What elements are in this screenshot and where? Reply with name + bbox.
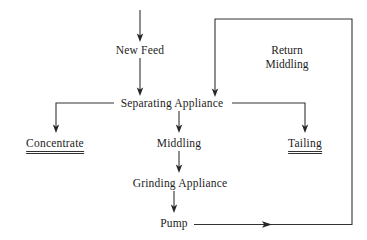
node-separating-appliance: Separating Appliance <box>121 97 224 110</box>
flowchart-connectors <box>0 0 367 240</box>
node-middling-label: Middling <box>157 137 201 149</box>
concentrate-second-underline <box>26 153 84 154</box>
edge-separating-appliance-to-concentrate <box>53 103 114 133</box>
edge-separating-appliance-to-tailing <box>232 103 308 133</box>
node-new-feed-label: New Feed <box>116 44 165 56</box>
node-concentrate: Concentrate <box>26 137 84 155</box>
tailing-second-underline <box>288 153 322 154</box>
annotation-return-middling-line2: Middling <box>266 57 309 71</box>
node-middling: Middling <box>157 137 201 150</box>
node-pump-label: Pump <box>160 217 188 229</box>
annotation-return-middling-line1: Return <box>266 43 309 57</box>
node-concentrate-label: Concentrate <box>26 137 84 152</box>
node-pump: Pump <box>160 217 188 230</box>
edge-separating-appliance-to-middling <box>176 111 182 133</box>
node-separating-appliance-label: Separating Appliance <box>121 97 224 109</box>
node-grinding-appliance: Grinding Appliance <box>133 177 228 190</box>
edge-new-feed-to-separating-appliance <box>137 58 143 96</box>
flowchart-diagram: New Feed Separating Appliance Concentrat… <box>0 0 367 240</box>
edge-grinding-appliance-to-pump <box>171 191 177 213</box>
edge-inlet-to-new-feed <box>137 10 143 42</box>
edge-middling-to-grinding-appliance <box>176 151 182 173</box>
annotation-return-middling: Return Middling <box>266 43 309 71</box>
node-new-feed: New Feed <box>116 44 165 57</box>
node-tailing: Tailing <box>288 137 322 155</box>
node-grinding-appliance-label: Grinding Appliance <box>133 177 228 189</box>
node-tailing-label: Tailing <box>288 137 322 152</box>
